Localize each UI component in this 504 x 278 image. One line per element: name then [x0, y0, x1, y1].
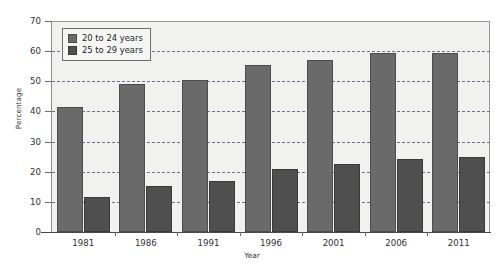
y-tick-label: 30 — [10, 137, 41, 147]
x-tick-label: 1996 — [260, 238, 282, 248]
legend: 20 to 24 years 25 to 29 years — [62, 28, 151, 61]
bar — [334, 164, 360, 232]
x-axis-title: Year — [0, 251, 504, 260]
y-tick-mark — [45, 51, 51, 52]
bar — [245, 65, 271, 232]
bar — [119, 84, 145, 232]
bar — [146, 186, 172, 232]
x-tick-mark — [365, 232, 366, 236]
legend-item-label: 20 to 24 years — [82, 33, 143, 43]
legend-item[interactable]: 20 to 24 years — [68, 32, 143, 44]
bar — [57, 107, 83, 232]
x-tick-mark — [115, 232, 116, 236]
y-tick-label: 10 — [10, 197, 41, 207]
legend-item[interactable]: 25 to 29 years — [68, 44, 143, 56]
x-tick-mark — [177, 232, 178, 236]
x-tick-label: 2011 — [448, 238, 470, 248]
bar — [370, 53, 396, 232]
y-tick-mark — [45, 172, 51, 173]
y-tick-label: 50 — [10, 76, 41, 86]
bar — [307, 60, 333, 232]
bar — [182, 80, 208, 232]
y-tick-label: 70 — [10, 16, 41, 26]
bar — [432, 53, 458, 232]
bar — [84, 197, 110, 232]
legend-swatch-icon — [68, 46, 77, 55]
bar — [272, 169, 298, 232]
legend-item-label: 25 to 29 years — [82, 45, 143, 55]
x-tick-label: 1991 — [197, 238, 219, 248]
y-tick-label: 0 — [10, 227, 41, 237]
y-tick-mark — [45, 21, 51, 22]
bar — [209, 181, 235, 232]
x-tick-label: 1986 — [135, 238, 157, 248]
y-tick-mark — [45, 81, 51, 82]
x-axis-line — [41, 232, 491, 233]
bar — [459, 157, 485, 232]
x-tick-mark — [427, 232, 428, 236]
y-tick-label: 60 — [10, 46, 41, 56]
x-tick-label: 2006 — [385, 238, 407, 248]
legend-swatch-icon — [68, 34, 77, 43]
y-tick-label: 20 — [10, 167, 41, 177]
x-tick-mark — [302, 232, 303, 236]
y-tick-mark — [45, 202, 51, 203]
y-tick-mark — [45, 111, 51, 112]
y-tick-mark — [45, 142, 51, 143]
x-tick-mark — [240, 232, 241, 236]
x-tick-label: 1981 — [72, 238, 94, 248]
x-tick-label: 2001 — [323, 238, 345, 248]
bar — [397, 159, 423, 232]
bar-chart: Percentage 010203040506070 1981198619911… — [0, 0, 504, 278]
y-tick-label: 40 — [10, 106, 41, 116]
